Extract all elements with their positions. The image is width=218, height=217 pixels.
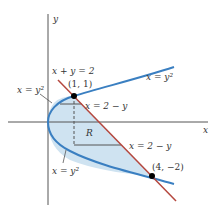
x-axis-label: x xyxy=(203,125,208,135)
parabola-label-left-lower: x = y² xyxy=(52,166,79,176)
region-label: R xyxy=(85,128,93,138)
leader-upper xyxy=(40,94,52,103)
point-4-neg2-label: (4, −2) xyxy=(152,162,184,172)
strip-upper-label: x = 2 − y xyxy=(85,101,128,111)
y-axis-label: y xyxy=(52,14,59,24)
region-diagram: y x x + y = 2 (1, 1) x = y² x = y² x = 2… xyxy=(0,0,218,217)
point-1-1 xyxy=(71,93,77,99)
point-1-1-label: (1, 1) xyxy=(68,79,92,89)
parabola-label-left-upper: x = y² xyxy=(17,85,44,95)
point-4-neg2 xyxy=(149,173,155,179)
parabola-label-upper-right: x = y² xyxy=(146,72,173,82)
line-equation-label: x + y = 2 xyxy=(52,66,95,76)
strip-lower-label: x = 2 − y xyxy=(129,141,172,151)
